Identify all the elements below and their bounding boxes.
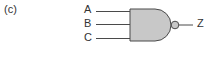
- nand-gate-body: [130, 9, 171, 41]
- inversion-bubble: [171, 21, 179, 29]
- nand-gate-diagram: [0, 0, 214, 58]
